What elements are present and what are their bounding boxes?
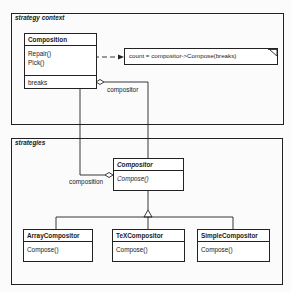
- class-name: TeXCompositor: [113, 230, 184, 242]
- package-label: strategy context: [15, 14, 64, 21]
- compositor-role-label: compositor: [107, 86, 138, 93]
- class-methods: Repair() Pick(): [25, 46, 96, 76]
- method-repair: Repair(): [28, 49, 93, 58]
- class-name: Composition: [25, 34, 96, 46]
- composition-role-label: composition: [69, 178, 103, 185]
- class-composition[interactable]: Composition Repair() Pick() breaks: [24, 33, 97, 89]
- method-compose: Compose(): [198, 242, 269, 256]
- method-pick: Pick(): [28, 58, 93, 67]
- class-tex-compositor[interactable]: TeXCompositor Compose(): [112, 229, 185, 262]
- class-array-compositor[interactable]: ArrayCompositor Compose(): [23, 229, 93, 262]
- note-text: count = compositor->Compose(breaks): [129, 52, 236, 59]
- class-compositor[interactable]: Compositor Compose(): [113, 158, 184, 191]
- class-simple-compositor[interactable]: SimpleCompositor Compose(): [197, 229, 270, 262]
- method-compose: Compose(): [113, 242, 184, 256]
- class-name: Compositor: [114, 159, 183, 171]
- method-compose: Compose(): [24, 242, 92, 256]
- class-name: ArrayCompositor: [24, 230, 92, 242]
- note-fold-icon: [268, 49, 278, 57]
- package-label: strategies: [15, 139, 45, 146]
- attribute-breaks: breaks: [28, 78, 93, 87]
- note-box: count = compositor->Compose(breaks): [124, 48, 278, 65]
- class-name: SimpleCompositor: [198, 230, 269, 242]
- class-attributes: breaks: [25, 76, 96, 89]
- method-compose: Compose(): [114, 171, 183, 185]
